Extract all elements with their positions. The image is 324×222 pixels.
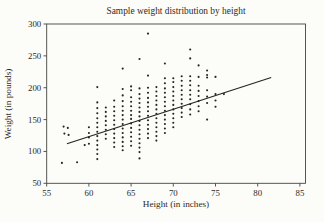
y-tick-label: 250 (28, 51, 42, 61)
scatter-figure: Sample weight distribution by height 556… (0, 0, 324, 222)
scatter-point (96, 153, 98, 155)
scatter-point (96, 135, 98, 137)
scatter-point (189, 89, 191, 91)
scatter-point (122, 88, 124, 90)
scatter-point (155, 135, 157, 137)
scatter-point (122, 114, 124, 116)
scatter-point (181, 116, 183, 118)
scatter-point (122, 145, 124, 147)
x-tick-label: 65 (127, 188, 136, 198)
x-tick-label: 80 (253, 188, 262, 198)
scatter-point (155, 140, 157, 142)
scatter-point (164, 77, 166, 79)
scatter-point (172, 113, 174, 115)
scatter-point (138, 115, 140, 117)
y-tick-label: 200 (28, 83, 42, 93)
scatter-point (130, 101, 132, 103)
scatter-point (122, 68, 124, 70)
scatter-point (113, 115, 115, 117)
scatter-point (130, 89, 132, 91)
x-tick-label: 55 (42, 188, 51, 198)
scatter-point (61, 162, 63, 164)
scatter-point (138, 102, 140, 104)
scatter-point (130, 131, 132, 133)
scatter-point (88, 132, 90, 134)
scatter-point (206, 102, 208, 104)
y-axis-label: Weight (in pounds) (3, 69, 13, 140)
scatter-point (147, 133, 149, 135)
x-tick-label: 85 (296, 188, 305, 198)
scatter-point (172, 81, 174, 83)
scatter-point (138, 151, 140, 153)
scatter-point (96, 144, 98, 146)
scatter-point (130, 85, 132, 87)
y-tick-label: 100 (28, 146, 42, 156)
scatter-point (172, 117, 174, 119)
scatter-point (138, 157, 140, 159)
scatter-point (181, 103, 183, 105)
scatter-point (147, 92, 149, 94)
data-points (61, 33, 225, 164)
scatter-point (198, 64, 200, 66)
scatter-point (147, 115, 149, 117)
scatter-point (138, 129, 140, 131)
scatter-point (147, 128, 149, 130)
scatter-point (189, 48, 191, 50)
scatter-point (172, 104, 174, 106)
y-tick-label: 300 (28, 19, 42, 29)
scatter-point (96, 101, 98, 103)
scatter-point (130, 136, 132, 138)
scatter-point (63, 133, 65, 135)
scatter-point (96, 158, 98, 160)
scatter-point (155, 117, 157, 119)
scatter-point (147, 119, 149, 121)
scatter-point (130, 105, 132, 107)
scatter-point (181, 89, 183, 91)
scatter-point (164, 119, 166, 121)
scatter-point (181, 98, 183, 100)
scatter-point (155, 122, 157, 124)
scatter-point (181, 112, 183, 114)
scatter-point (198, 90, 200, 92)
scatter-point (105, 111, 107, 113)
scatter-point (181, 94, 183, 96)
scatter-point (122, 100, 124, 102)
scatter-point (189, 75, 191, 77)
scatter-point (164, 105, 166, 107)
scatter-point (138, 98, 140, 100)
scatter-point (198, 85, 200, 87)
scatter-point (181, 75, 183, 77)
scatter-point (122, 94, 124, 96)
scatter-point (122, 110, 124, 112)
scatter-chart: Sample weight distribution by height 556… (0, 0, 324, 222)
scatter-point (147, 101, 149, 103)
scatter-point (164, 101, 166, 103)
scatter-point (122, 136, 124, 138)
scatter-point (105, 115, 107, 117)
scatter-point (172, 99, 174, 101)
scatter-point (63, 126, 65, 128)
scatter-point (164, 87, 166, 89)
scatter-point (96, 122, 98, 124)
scatter-point (164, 92, 166, 94)
plot-frame (47, 24, 306, 183)
scatter-point (96, 140, 98, 142)
scatter-point (189, 98, 191, 100)
scatter-point (113, 106, 115, 108)
scatter-point (105, 138, 107, 140)
scatter-point (198, 95, 200, 97)
scatter-point (189, 57, 191, 59)
scatter-point (164, 114, 166, 116)
scatter-point (198, 105, 200, 107)
scatter-point (172, 77, 174, 79)
scatter-point (147, 124, 149, 126)
scatter-point (206, 74, 208, 76)
scatter-point (172, 126, 174, 128)
scatter-point (113, 146, 115, 148)
scatter-point (164, 123, 166, 125)
scatter-point (122, 141, 124, 143)
scatter-point (189, 94, 191, 96)
plot-border (47, 24, 306, 183)
scatter-point (189, 113, 191, 115)
scatter-point (130, 114, 132, 116)
